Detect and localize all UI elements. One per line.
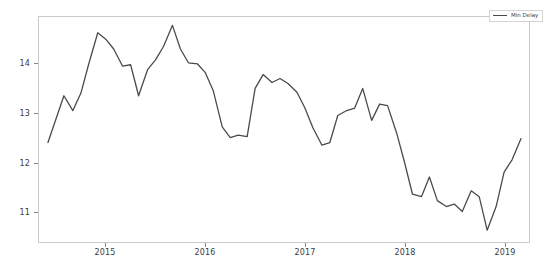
legend-line-swatch bbox=[493, 15, 507, 16]
x-axis-tick-label: 2016 bbox=[194, 248, 215, 257]
y-axis-tick-mark bbox=[34, 113, 38, 114]
y-axis-tick-label: 13 bbox=[19, 108, 30, 117]
x-axis-tick-mark bbox=[405, 243, 406, 247]
y-axis-tick-label: 11 bbox=[19, 208, 30, 217]
x-axis-tick-mark bbox=[105, 243, 106, 247]
x-axis-tick-mark bbox=[305, 243, 306, 247]
y-axis-tick-label: 14 bbox=[19, 59, 30, 68]
chart-figure: 11121314 Min Delay 20152016201720182019 bbox=[0, 0, 548, 276]
x-axis-tick-mark bbox=[205, 243, 206, 247]
y-axis-tick-mark bbox=[34, 212, 38, 213]
chart-legend: Min Delay bbox=[489, 10, 543, 22]
plot-area bbox=[38, 16, 530, 243]
x-axis-tick-mark bbox=[505, 243, 506, 247]
x-axis-tick-label: 2017 bbox=[294, 248, 315, 257]
y-axis-tick-mark bbox=[34, 63, 38, 64]
line-chart-svg bbox=[39, 17, 529, 242]
x-axis-tick-label: 2018 bbox=[394, 248, 415, 257]
y-axis-tick-mark bbox=[34, 163, 38, 164]
series-line-min-delay bbox=[48, 25, 521, 230]
y-axis-tick-label: 12 bbox=[19, 158, 30, 167]
legend-item-label: Min Delay bbox=[511, 13, 538, 19]
x-axis-tick-label: 2015 bbox=[94, 248, 115, 257]
y-axis-tick-labels: 11121314 bbox=[0, 0, 30, 276]
x-axis-tick-label: 2019 bbox=[494, 248, 515, 257]
